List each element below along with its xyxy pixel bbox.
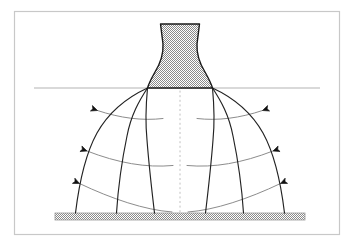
arrowhead <box>80 146 88 154</box>
arrowhead <box>262 106 270 114</box>
streamline <box>146 88 155 213</box>
velocity-profile-curve <box>87 151 173 166</box>
arrowhead <box>272 146 280 154</box>
impingement-plate <box>55 213 305 220</box>
velocity-profile-curve <box>188 184 281 213</box>
velocity-profile-curve <box>80 184 173 213</box>
diagram-canvas <box>0 0 353 244</box>
streamline <box>117 88 148 213</box>
nozzle-body <box>148 24 213 88</box>
velocity-profile-curve <box>187 151 273 166</box>
streamline <box>213 88 244 213</box>
streamline <box>206 88 215 213</box>
arrowhead <box>90 106 98 114</box>
diagram-svg <box>0 0 353 244</box>
